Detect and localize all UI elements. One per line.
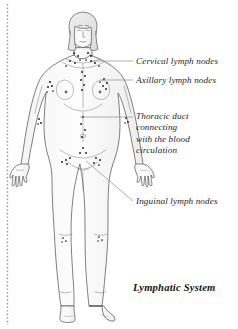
label-axillary-lymph-nodes: Axillary lymph nodes <box>136 75 216 86</box>
label-cervical-lymph-nodes: Cervical lymph nodes <box>136 56 218 67</box>
head <box>68 12 98 51</box>
label-thoracic-duct-line-1: Thoracic duct <box>136 111 216 122</box>
anatomical-figure-svg <box>0 0 238 329</box>
body-outline <box>21 48 143 306</box>
label-thoracic-duct-line-2: connecting <box>136 122 216 133</box>
figure-title: Lymphatic System <box>133 282 216 293</box>
label-thoracic-duct-line-3: with the blood <box>136 134 216 145</box>
label-inguinal-lymph-nodes: Inguinal lymph nodes <box>136 196 218 207</box>
label-thoracic-duct: Thoracic duct connecting with the blood … <box>136 111 216 157</box>
lymphatic-system-illustration: Cervical lymph nodes Axillary lymph node… <box>0 0 238 329</box>
label-thoracic-duct-line-4: circulation <box>136 145 216 156</box>
feet <box>60 306 115 323</box>
